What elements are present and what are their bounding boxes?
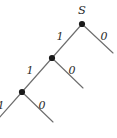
edge-label-n1-right-0: 0 — [69, 64, 76, 77]
tree-node-n2 — [19, 89, 25, 95]
figure-background — [0, 0, 117, 138]
root-label-group: S — [78, 3, 86, 17]
edge-label-n2-right-0: 0 — [39, 99, 46, 112]
edge-label-root-left-1: 1 — [57, 30, 64, 43]
root-node-label: S — [78, 3, 86, 17]
tree-diagram-canvas: 1 0 1 0 1 0 S — [0, 0, 117, 138]
binary-tree-figure: 1 0 1 0 1 0 S — [0, 0, 117, 138]
tree-node-root — [79, 21, 85, 27]
edge-label-n1-left-1: 1 — [27, 64, 34, 77]
edge-label-n2-left-1: 1 — [0, 99, 5, 112]
edge-label-root-right-0: 0 — [101, 30, 108, 43]
tree-node-n1 — [49, 55, 55, 61]
